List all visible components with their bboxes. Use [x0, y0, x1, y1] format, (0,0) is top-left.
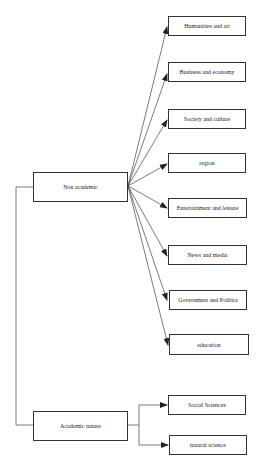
node-label: Non academic: [63, 184, 97, 190]
node-region: region: [168, 153, 246, 173]
node-government-and-politics: Government and Politics: [169, 290, 247, 310]
node-social-sciences: Social Sciences: [168, 395, 246, 415]
node-label: Society and culture: [184, 116, 230, 122]
node-label: natural science: [190, 442, 226, 448]
node-education: education: [169, 334, 249, 355]
node-label: education: [197, 342, 220, 348]
node-natural-science: natural science: [169, 435, 247, 455]
node-label: Academic nature: [60, 423, 101, 429]
node-label: Entertainment and leisure: [177, 205, 239, 211]
node-academic-nature: Academic nature: [33, 411, 128, 441]
node-label: Social Sciences: [188, 402, 226, 408]
node-label: Government and Politics: [178, 297, 238, 303]
node-business-and-economy: Business and economy: [168, 62, 246, 82]
node-label: region: [199, 160, 214, 166]
node-entertainment-and-leisure: Entertainment and leisure: [168, 198, 247, 218]
node-humanities-and-art: Humanities and art: [168, 16, 246, 36]
node-label: News and media: [188, 252, 228, 258]
node-label: Humanities and art: [184, 23, 230, 29]
node-non-academic: Non academic: [33, 172, 128, 202]
node-label: Business and economy: [180, 69, 235, 75]
node-society-and-culture: Society and culture: [168, 109, 246, 129]
node-news-and-media: News and media: [168, 245, 247, 265]
